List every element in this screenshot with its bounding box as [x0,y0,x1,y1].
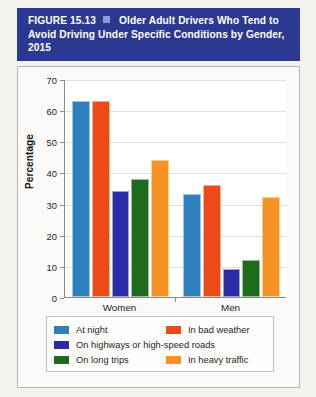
bar [131,179,149,297]
y-axis-title: Percentage [24,134,35,189]
bar [262,197,280,297]
square-bullet-icon [103,16,110,23]
bar [92,101,110,297]
legend-swatch-in-heavy-traffic [166,356,181,364]
bar [183,194,201,297]
figure-page: FIGURE 15.13Older Adult Drivers Who Tend… [0,0,316,397]
y-tick-label: 50 [47,137,57,148]
legend-swatch-at-night [54,326,69,334]
y-tick-label: 10 [47,261,57,272]
chart-legend: At night In bad weather On highways or h… [46,316,274,372]
bar [112,191,130,297]
figure-number-label: FIGURE 15.13 [28,15,96,26]
bar [242,260,260,297]
legend-label-at-night: At night [76,325,108,335]
legend-swatch-in-bad-weather [166,326,181,334]
y-tick-label: 0 [52,293,57,304]
bar [72,101,90,297]
y-tick-label: 40 [47,168,57,179]
y-tick-label: 30 [47,199,57,210]
plot-region: 010203040506070 WomenMen [64,80,286,298]
legend-item-in-bad-weather: In bad weather [166,325,250,335]
plot-area [64,80,286,298]
y-tick-mark [60,111,64,112]
bar [223,269,241,297]
y-tick-mark [60,236,64,237]
y-tick-mark [60,142,64,143]
bar [151,160,169,297]
legend-item-in-heavy-traffic: In heavy traffic [166,355,248,365]
y-tick-label: 20 [47,230,57,241]
x-tick-mark [175,298,176,302]
gridline [65,80,286,81]
legend-label-on-highways: On highways or high-speed roads [76,340,215,350]
legend-item-at-night: At night [54,325,166,335]
legend-item-on-long-trips: On long trips [54,355,166,365]
legend-row: At night In bad weather [54,322,273,337]
y-tick-mark [60,80,64,81]
y-tick-mark [60,298,64,299]
chart-card: Percentage 010203040506070 WomenMen At n… [17,66,300,388]
legend-swatch-on-highways [54,341,69,349]
legend-label-on-long-trips: On long trips [76,355,129,365]
legend-label-in-heavy-traffic: In heavy traffic [188,355,248,365]
legend-swatch-on-long-trips [54,356,69,364]
legend-item-on-highways: On highways or high-speed roads [54,340,215,350]
bar [203,185,221,297]
y-tick-mark [60,205,64,206]
figure-header-text: FIGURE 15.13Older Adult Drivers Who Tend… [28,14,290,55]
legend-row: On highways or high-speed roads [54,337,273,352]
y-tick-label: 60 [47,106,57,117]
x-axis-group-label: Women [103,302,137,313]
legend-label-in-bad-weather: In bad weather [188,325,250,335]
legend-row: On long trips In heavy traffic [54,352,273,367]
y-tick-mark [60,173,64,174]
figure-header-banner: FIGURE 15.13Older Adult Drivers Who Tend… [17,8,300,61]
x-axis-group-label: Men [221,302,240,313]
y-tick-label: 70 [47,75,57,86]
y-tick-mark [60,267,64,268]
